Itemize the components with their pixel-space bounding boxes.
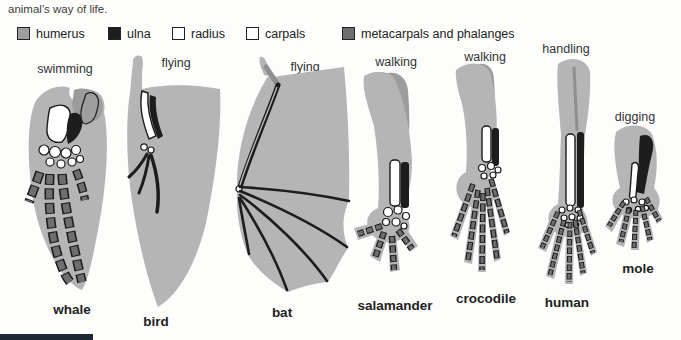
name-label-mole: mole xyxy=(622,261,654,276)
radius-swatch-icon xyxy=(172,27,185,40)
legend-item-humerus: humerus xyxy=(17,26,85,41)
legend-label: radius xyxy=(191,27,225,41)
salamander-radius xyxy=(390,160,400,206)
humerus-swatch-icon xyxy=(17,27,30,40)
name-label-human: human xyxy=(545,295,589,310)
figure-caption: animal's way of life. xyxy=(8,3,107,15)
human-ulna xyxy=(577,132,584,208)
page-edge-bar xyxy=(0,334,93,340)
crocodile-radius xyxy=(482,126,491,162)
name-label-crocodile: crocodile xyxy=(456,291,516,306)
whale-limb-illustration xyxy=(14,80,114,295)
crocodile-limb-illustration xyxy=(446,60,528,278)
salamander-limb-illustration xyxy=(352,72,442,287)
name-label-bird: bird xyxy=(143,314,169,329)
legend-item-ulna: ulna xyxy=(108,26,151,41)
legend-item-radius: radius xyxy=(172,26,225,41)
activity-label-whale: swimming xyxy=(37,62,93,76)
activity-label-salamander: walking xyxy=(375,55,417,69)
carpals-swatch-icon xyxy=(246,27,259,40)
metacarpals-swatch-icon xyxy=(342,27,355,40)
bat-limb-illustration xyxy=(232,55,354,295)
legend-label: humerus xyxy=(36,27,85,41)
name-label-salamander: salamander xyxy=(357,298,432,313)
name-label-whale: whale xyxy=(53,302,91,317)
ulna-swatch-icon xyxy=(108,27,121,40)
legend-item-carpals: carpals xyxy=(246,26,305,41)
legend-label: ulna xyxy=(127,27,151,41)
name-label-bat: bat xyxy=(272,305,292,320)
human-radius xyxy=(566,134,575,206)
legend-label: metacarpals and phalanges xyxy=(361,27,515,41)
mole-limb-illustration xyxy=(602,122,674,262)
bird-limb-illustration xyxy=(116,55,224,310)
figure-homologous-limbs: animal's way of life. humerus ulna radiu… xyxy=(0,0,681,340)
crocodile-ulna xyxy=(492,128,499,166)
activity-label-human: handling xyxy=(542,42,589,56)
salamander-ulna xyxy=(401,162,409,208)
legend-label: carpals xyxy=(265,27,305,41)
bat-wing-silhouette xyxy=(237,57,349,292)
legend-item-metacarpals: metacarpals and phalanges xyxy=(342,26,515,41)
